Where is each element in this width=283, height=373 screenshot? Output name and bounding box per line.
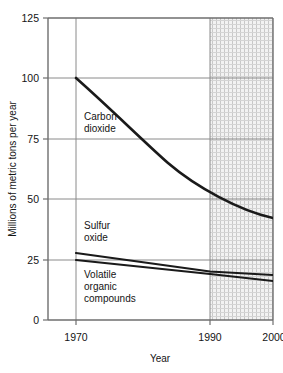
x-tick-label-1970: 1970: [64, 331, 88, 343]
chart-figure: 125 100 75 50 25 0 1970 1990 2000 Millio…: [0, 0, 283, 373]
x-tick-label-1990: 1990: [198, 331, 222, 343]
series-label-carbon-dioxide: Carbon dioxide: [84, 111, 117, 134]
series-label-sulfur-oxide: Sulfur oxide: [84, 220, 111, 243]
y-tick-label-75: 75: [27, 133, 39, 145]
series-label-voc-line3: compounds: [84, 293, 136, 304]
line-chart-svg: 125 100 75 50 25 0 1970 1990 2000 Millio…: [0, 0, 283, 373]
y-tick-label-100: 100: [21, 72, 39, 84]
y-tick-label-0: 0: [33, 314, 39, 326]
series-label-sulfur-oxide-line2: oxide: [84, 232, 108, 243]
series-label-sulfur-oxide-line1: Sulfur: [84, 220, 111, 231]
x-axis-title: Year: [150, 353, 171, 364]
series-label-voc-line2: organic: [84, 281, 117, 292]
y-tick-label-125: 125: [21, 12, 39, 24]
y-tick-label-25: 25: [27, 254, 39, 266]
y-tick-label-50: 50: [27, 193, 39, 205]
series-label-carbon-dioxide-line1: Carbon: [84, 111, 117, 122]
series-label-voc-line1: Volatile: [84, 269, 117, 280]
x-tick-label-2000: 2000: [262, 331, 283, 343]
series-label-carbon-dioxide-line2: dioxide: [84, 123, 116, 134]
y-axis-title: Millions of metric tons per year: [7, 101, 18, 237]
